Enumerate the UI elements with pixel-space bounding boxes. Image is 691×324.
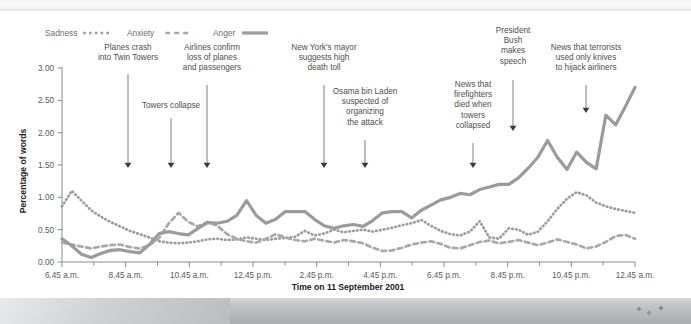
annotation-text-line: News that [455,80,492,89]
annotation-text-line: the attack [347,118,383,127]
legend-label-anger: Anger [213,28,235,38]
scan-top-edge [0,0,691,11]
scan-speckle-icon [635,305,677,317]
annotation-text-line: speech [500,57,527,66]
y-axis-title: Percentage of words [18,129,28,214]
annotation-text-line: Towers collapse [142,101,201,110]
annotation-bin-laden: Osama bin Ladensuspected oforganizingthe… [333,87,398,168]
annotation-arrowhead-icon [362,163,369,168]
x-axis-title: Time on 11 September 2001 [292,282,405,292]
annotation-text-line: President [496,26,531,35]
emotion-words-line-chart: SadnessAnxietyAnger 0.000.501.001.502.00… [0,11,691,298]
annotation-text-line: organizing [346,107,384,116]
figure-root: SadnessAnxietyAnger 0.000.501.001.502.00… [0,0,691,324]
y-tick-label: 0.00 [38,258,54,267]
y-tick-label: 3.00 [38,64,54,73]
annotation-text-line: New York's mayor [291,43,357,52]
annotation-text-line: Osama bin Laden [333,87,398,96]
annotation-text-line: used only knives [556,53,617,62]
y-tick-label: 0.50 [38,226,54,235]
annotation-arrowhead-icon [583,108,590,113]
annotation-text-line: collapsed [456,121,491,130]
x-tick-label: 4.45 p.m. [363,271,397,280]
annotation-text-line: Bush [504,36,523,45]
y-axis: 0.000.501.001.502.002.503.00 [38,64,62,267]
x-tick-label: 6.45 a.m. [45,271,79,280]
x-tick-label: 8.45 a.m. [109,271,143,280]
y-tick-label: 1.00 [38,193,54,202]
annotation-text-line: and passengers [183,63,241,72]
legend-label-anxiety: Anxiety [127,28,155,38]
annotation-text-line: Planes crash [104,43,152,52]
x-tick-label: 6.45 p.m. [427,271,461,280]
annotation-arrowhead-icon [321,163,328,168]
annotation-arrowhead-icon [168,163,175,168]
annotation-text-line: died when [454,100,492,109]
x-tick-label: 12.45 p.m. [234,271,273,280]
annotation-arrowhead-icon [510,126,517,131]
annotation-text-line: suspected of [342,97,389,106]
scan-swoosh [0,298,230,324]
annotation-text-line: Airlines confirm [184,43,240,52]
chart-canvas: SadnessAnxietyAnger 0.000.501.001.502.00… [0,11,691,298]
y-tick-label: 2.00 [38,129,54,138]
annotation-text-line: firefighters [454,90,492,99]
annotation-arrowhead-icon [204,163,211,168]
annotation-text-line: towers [461,111,485,120]
x-tick-label: 10.45 p.m. [552,271,591,280]
annotation-text-line: to hijack airliners [556,63,617,72]
x-tick-label: 8.45 p.m. [491,271,525,280]
y-tick-label: 1.50 [38,161,54,170]
series-line-sadness [62,191,635,243]
annotation-terrorists-knives: News that terroristsused only knivesto h… [551,43,622,113]
annotation-text-line: makes [501,46,525,55]
annotation-text-line: News that terrorists [551,43,622,52]
annotation-text-line: death toll [307,63,340,72]
scan-bottom-edge [0,298,691,324]
x-tick-label: 2.45 p.m. [300,271,334,280]
y-tick-label: 2.50 [38,96,54,105]
legend-label-sadness: Sadness [45,28,77,38]
chart-legend: SadnessAnxietyAnger [45,28,268,38]
annotation-towers-collapse: Towers collapse [142,101,201,168]
annotation-firefighters-died: News thatfirefightersdied whentowerscoll… [454,80,492,168]
annotation-text-line: loss of planes [187,53,237,62]
x-axis: 6.45 a.m.8.45 a.m.10.45 a.m.12.45 p.m.2.… [45,262,654,280]
annotation-text-line: suggests high [299,53,350,62]
annotation-bush-speech: PresidentBushmakesspeech [496,26,531,131]
x-tick-label: 10.45 a.m. [170,271,209,280]
annotation-arrowhead-icon [125,163,132,168]
x-tick-label: 12.45 a.m. [616,271,655,280]
annotation-arrowhead-icon [470,163,477,168]
annotation-text-line: into Twin Towers [98,53,158,62]
